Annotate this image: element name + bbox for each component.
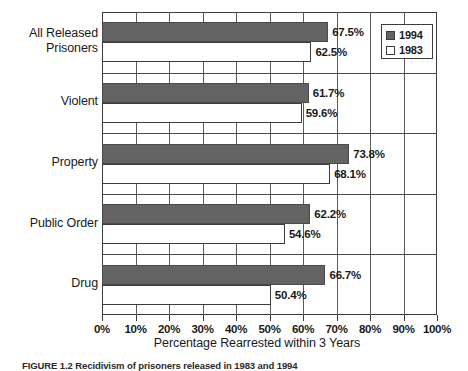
legend-label-1983: 1983	[399, 45, 423, 56]
legend-swatch-1994-icon	[386, 31, 395, 40]
bar-label-1994-2: 61.7%	[313, 83, 345, 103]
category-label-5: Drug	[2, 276, 98, 291]
legend-item-1983: 1983	[386, 43, 432, 57]
bar-label-1983-1: 62.5%	[315, 42, 347, 62]
x-axis-tick	[203, 315, 204, 321]
x-axis-title-text: Percentage Rearrested within 3 Years	[154, 336, 360, 350]
category-label-line: All Released	[2, 26, 98, 41]
x-axis-tick	[270, 315, 271, 321]
bar-1983-1	[102, 42, 311, 62]
category-label-line: Property	[2, 155, 98, 170]
bar-1983-5	[102, 285, 271, 305]
x-axis-tick	[404, 315, 405, 321]
category-label-line: Prisoners	[2, 41, 98, 56]
bar-1994-3	[102, 144, 349, 164]
x-axis-title: Percentage Rearrested within 3 Years	[0, 336, 468, 350]
legend-item-1994: 1994	[386, 28, 432, 42]
bar-label-1983-5: 50.4%	[275, 285, 307, 305]
bar-label-1994-5: 66.7%	[329, 265, 361, 285]
chart-legend: 1994 1983	[381, 24, 433, 59]
chart-category-separator	[102, 194, 437, 195]
bar-label-1983-4: 54.6%	[289, 224, 321, 244]
bar-label-1994-4: 62.2%	[314, 204, 346, 224]
legend-swatch-1983-icon	[386, 46, 395, 55]
category-label-3: Property	[2, 155, 98, 170]
x-axis-tick	[437, 315, 438, 321]
x-axis-tick	[236, 315, 237, 321]
x-axis-tick	[337, 315, 338, 321]
category-label-line: Public Order	[2, 216, 98, 231]
bar-1994-4	[102, 204, 310, 224]
chart-category-separator	[102, 133, 437, 134]
category-label-line: Drug	[2, 276, 98, 291]
bar-1994-5	[102, 265, 325, 285]
bar-label-1994-3: 73.8%	[353, 144, 385, 164]
legend-label-1994: 1994	[399, 30, 423, 41]
x-axis-tick	[102, 315, 103, 321]
bar-1983-3	[102, 164, 330, 184]
x-axis-tick	[370, 315, 371, 321]
bar-label-1983-3: 68.1%	[334, 164, 366, 184]
bar-1983-2	[102, 103, 302, 123]
x-axis-tick	[136, 315, 137, 321]
bar-1994-1	[102, 22, 328, 42]
x-axis-tick	[303, 315, 304, 321]
x-axis-tick	[169, 315, 170, 321]
category-label-1: All ReleasedPrisoners	[2, 26, 98, 56]
x-axis-tick-label: 100%	[417, 323, 457, 335]
category-label-line: Violent	[2, 94, 98, 109]
category-label-2: Violent	[2, 94, 98, 109]
chart-category-separator	[102, 254, 437, 255]
bar-1994-2	[102, 83, 309, 103]
bar-1983-4	[102, 224, 285, 244]
bar-label-1983-2: 59.6%	[306, 103, 338, 123]
category-label-4: Public Order	[2, 216, 98, 231]
bar-label-1994-1: 67.5%	[332, 22, 364, 42]
figure-caption: FIGURE 1.2 Recidivism of prisoners relea…	[22, 360, 452, 371]
chart-category-separator	[102, 73, 437, 74]
